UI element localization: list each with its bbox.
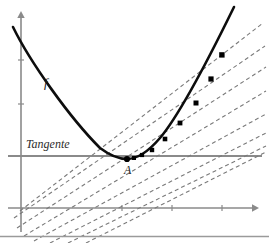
secant-lines-group [14, 23, 266, 243]
secant-touch-points-group [132, 52, 225, 160]
curve-point-dot [140, 153, 144, 157]
tangent-secant-plot [0, 0, 269, 243]
secant-line-5 [34, 114, 266, 241]
function-label-f: f [44, 76, 48, 89]
curve-point-dot [194, 101, 199, 106]
secant-line-1 [20, 23, 263, 211]
point-label-a: A [124, 164, 131, 176]
curve-point-dot [208, 76, 213, 81]
y-axis-arrow-icon [17, 11, 24, 18]
tangent-label: Tangente [26, 138, 70, 150]
secant-line-6 [50, 133, 266, 243]
figure-canvas: f A Tangente [0, 0, 269, 243]
axes-group [8, 11, 259, 232]
x-axis-arrow-icon [252, 204, 259, 212]
curve-point-dot [178, 121, 183, 126]
point-a-marker [124, 156, 130, 162]
curve-point-dot [150, 148, 154, 152]
secant-line-2 [14, 46, 265, 218]
secant-line-4 [24, 91, 266, 236]
curve-point-dot [219, 52, 224, 57]
curve-point-dot [163, 137, 168, 142]
curve-point-dot [132, 156, 136, 160]
